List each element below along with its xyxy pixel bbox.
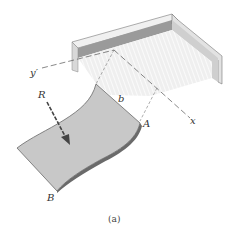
resultant-label: R (37, 89, 46, 100)
point-a-label: A (142, 118, 150, 129)
plate-loading-diagram: y′ R b A x B (a) (0, 0, 230, 230)
y-prime-axis-label: y′ (29, 67, 39, 78)
point-b-label: B (46, 192, 54, 203)
width-label: b (118, 93, 124, 104)
figure-caption: (a) (108, 214, 120, 224)
x-axis-label: x (190, 115, 196, 126)
